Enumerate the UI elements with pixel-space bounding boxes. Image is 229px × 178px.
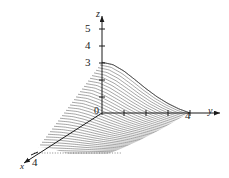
surface-mesh <box>34 62 190 153</box>
surface-plot-canvas <box>0 0 229 178</box>
z-axis-label: z <box>96 8 100 19</box>
y-tick-label-4: 4 <box>185 110 191 121</box>
z-tick-label-3: 3 <box>85 57 91 68</box>
origin-label: 0 <box>94 105 99 116</box>
x-tick-label-4: 4 <box>32 157 38 168</box>
z-tick-label-5: 5 <box>85 23 91 34</box>
x-axis-label: x <box>20 161 24 172</box>
z-tick-label-4: 4 <box>85 40 91 51</box>
y-axis-label: y <box>208 105 212 116</box>
surface-plot-figure: 5 4 3 z 4 y 4 x 0 <box>0 0 229 178</box>
